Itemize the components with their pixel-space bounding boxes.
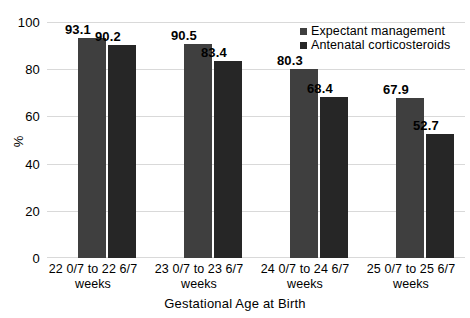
plot-area	[47, 22, 465, 258]
bar-value-g0-s1: 90.2	[85, 29, 131, 44]
bar-value-g3-s0: 67.9	[373, 82, 419, 97]
y-tick-label-100: 100	[0, 15, 40, 30]
bar-value-g1-s1: 83.4	[191, 45, 237, 60]
bar-value-g2-s0: 80.3	[267, 53, 313, 68]
legend-label-1: Antenatal corticosteroids	[311, 38, 450, 52]
legend-label-0: Expectant management	[311, 24, 445, 38]
y-tick-label-40: 40	[0, 157, 40, 172]
x-category-label-3-line1: 25 0/7 to 25 6/7	[353, 262, 469, 277]
x-category-label-2-line2: weeks	[247, 277, 363, 292]
bar-g1-s0[interactable]	[184, 44, 212, 258]
bar-g1-s1[interactable]	[214, 61, 242, 258]
legend-item-antenatal-corticosteroids[interactable]: Antenatal corticosteroids	[300, 38, 450, 52]
x-category-label-3-line2: weeks	[353, 277, 469, 292]
legend: Expectant management Antenatal corticost…	[300, 24, 450, 52]
bar-value-g1-s0: 90.5	[161, 28, 207, 43]
x-category-label-2: 24 0/7 to 24 6/7 weeks	[247, 262, 363, 292]
bar-g0-s1[interactable]	[108, 45, 136, 258]
x-category-label-1-line2: weeks	[141, 277, 257, 292]
x-category-label-0-line2: weeks	[35, 277, 151, 292]
x-category-label-1-line1: 23 0/7 to 23 6/7	[141, 262, 257, 277]
x-category-label-0-line1: 22 0/7 to 22 6/7	[35, 262, 151, 277]
legend-item-expectant-management[interactable]: Expectant management	[300, 24, 450, 38]
y-tick-label-0: 0	[0, 251, 40, 266]
bar-g0-s0[interactable]	[78, 38, 106, 258]
y-tick-label-80: 80	[0, 62, 40, 77]
bar-value-g2-s1: 68.4	[297, 81, 343, 96]
y-tick-label-20: 20	[0, 204, 40, 219]
bar-value-g3-s1: 52.7	[403, 118, 449, 133]
x-axis-title: Gestational Age at Birth	[0, 296, 470, 311]
y-axis-title: %	[11, 128, 26, 156]
x-category-label-3: 25 0/7 to 25 6/7 weeks	[353, 262, 469, 292]
bar-chart: 100 80 60 40 20 0 % 93.1 90.2 90.5 83.4 …	[0, 0, 470, 318]
bar-g2-s0[interactable]	[290, 69, 318, 259]
x-category-label-0: 22 0/7 to 22 6/7 weeks	[35, 262, 151, 292]
bar-g3-s1[interactable]	[426, 134, 454, 258]
x-category-label-2-line1: 24 0/7 to 24 6/7	[247, 262, 363, 277]
bar-g2-s1[interactable]	[320, 97, 348, 258]
gridline-100	[47, 22, 465, 23]
x-category-label-1: 23 0/7 to 23 6/7 weeks	[141, 262, 257, 292]
y-tick-label-60: 60	[0, 109, 40, 124]
legend-swatch-icon-1	[300, 42, 307, 49]
legend-swatch-icon-0	[300, 28, 307, 35]
